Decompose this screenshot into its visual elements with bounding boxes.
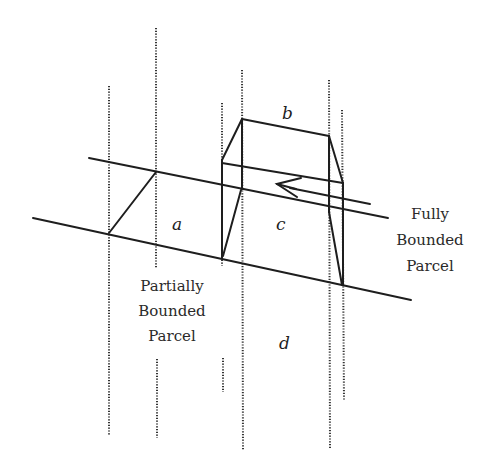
vertical-extension-lines (109, 28, 344, 450)
box-right-diagonal (329, 212, 342, 285)
fully-bounded-annotation: Fully Bounded Parcel (396, 205, 464, 275)
label-a: a (172, 214, 182, 234)
box-left-diagonal (223, 190, 241, 256)
fully-line-2: Bounded (396, 231, 464, 249)
parcel-b-box (222, 119, 370, 285)
partially-line-3: Parcel (148, 327, 196, 345)
fully-line-1: Fully (411, 205, 450, 223)
partially-line-2: Bounded (138, 302, 206, 320)
partially-bounded-annotation: Partially Bounded Parcel (138, 277, 206, 345)
parcel-a-diagonal (109, 172, 156, 233)
partially-line-1: Partially (140, 277, 204, 295)
parcel-a-edges (109, 172, 156, 233)
box-right-slant (329, 136, 343, 183)
label-c: c (276, 214, 286, 234)
box-left-slant (222, 119, 242, 160)
parcel-diagram: a b c d Partially Bounded Parcel Fully B… (0, 0, 486, 475)
label-d: d (279, 333, 290, 353)
fully-line-3: Parcel (406, 257, 454, 275)
arrow-icon (277, 178, 301, 197)
box-bottom-edge (222, 163, 343, 183)
label-b: b (282, 103, 293, 123)
